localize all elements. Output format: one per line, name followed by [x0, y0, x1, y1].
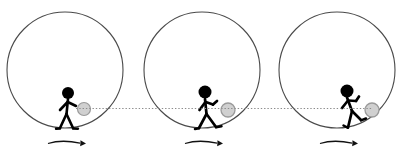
panel-2: [144, 12, 260, 146]
panel-3: [279, 12, 395, 146]
figure-canvas: [0, 0, 403, 161]
wheel-circle-2: [144, 12, 260, 128]
stick-figure-head-3: [341, 85, 354, 98]
rotation-arrow-3: [320, 140, 358, 146]
panel-1: [7, 12, 123, 146]
ball-2: [221, 103, 235, 117]
illustration-svg: [0, 0, 403, 161]
wheel-circle-1: [7, 12, 123, 128]
rotation-arrow-2: [185, 140, 223, 146]
stick-figure-2: [195, 99, 222, 129]
stick-figure-head-1: [62, 87, 74, 99]
stick-figure-1: [56, 99, 78, 129]
ball-3: [365, 103, 379, 117]
stick-figure-head-2: [199, 86, 212, 99]
rotation-arrow-1: [48, 140, 86, 146]
stick-figure-3: [342, 97, 366, 128]
